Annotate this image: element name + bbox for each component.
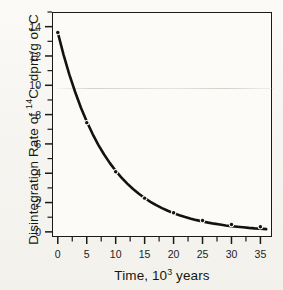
data-point (56, 31, 59, 34)
figure-canvas: 02468101214 05101520253035 Disintegratio… (0, 0, 283, 290)
x-axis-title: Time, 103 years (52, 268, 272, 283)
x-tick-label: 20 (168, 248, 180, 260)
data-point (143, 196, 146, 199)
y-axis-title: Disintegration Rate of 14C, dpm/g of C (26, 5, 41, 255)
y-title-superscript: 14 (24, 99, 34, 109)
x-tick-label: 30 (226, 248, 238, 260)
data-point (172, 211, 175, 214)
x-tick-label: 25 (197, 248, 209, 260)
x-tick-label: 10 (110, 248, 122, 260)
data-point (259, 225, 262, 228)
x-tick-label: 5 (84, 248, 90, 260)
x-title-superscript: 3 (167, 267, 172, 277)
x-axis-minor-ticks (72, 237, 246, 242)
decay-curve (58, 33, 266, 230)
x-tick-label: 0 (55, 248, 61, 260)
data-point (230, 223, 233, 226)
x-tick-label: 35 (255, 248, 267, 260)
x-tick-label: 15 (139, 248, 151, 260)
data-point (114, 170, 117, 173)
chart-svg (0, 0, 283, 290)
data-point (85, 121, 88, 124)
data-point (201, 219, 204, 222)
data-point-markers (56, 31, 263, 229)
